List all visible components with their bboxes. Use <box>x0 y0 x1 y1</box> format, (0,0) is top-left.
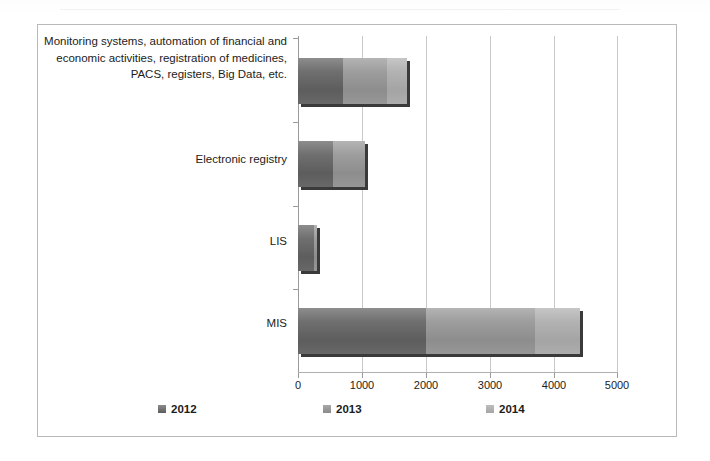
gridline-5000 <box>617 36 618 373</box>
xtick-label-0: 0 <box>295 379 301 391</box>
bar-shadow-bottom <box>301 354 583 357</box>
axis-tick-x-2000 <box>426 373 427 378</box>
legend-label-2013: 2013 <box>336 403 362 415</box>
axis-tick-y-top <box>293 38 298 39</box>
legend-item-2013[interactable]: 2013 <box>323 403 362 415</box>
legend-item-2012[interactable]: 2012 <box>158 403 197 415</box>
category-label-mis: MIS <box>32 315 287 332</box>
legend-swatch-icon <box>323 405 331 413</box>
bar-segment-2012[interactable] <box>298 58 343 104</box>
category-label-lis: LIS <box>32 233 287 250</box>
axis-tick-y-2 <box>293 206 298 207</box>
legend-swatch-icon <box>486 405 494 413</box>
bar-shadow-bottom <box>301 104 410 107</box>
axis-tick-x-5000 <box>617 373 618 378</box>
xtick-label-2000: 2000 <box>414 379 438 391</box>
bar-shadow-right <box>407 61 410 107</box>
bar-shadow-right <box>317 228 320 274</box>
xtick-label-5000: 5000 <box>605 379 629 391</box>
xtick-label-1000: 1000 <box>350 379 374 391</box>
legend-swatch-icon <box>158 405 166 413</box>
category-label-electronic-registry: Electronic registry <box>32 151 287 168</box>
xtick-label-4000: 4000 <box>542 379 566 391</box>
bar-segment-2013[interactable] <box>343 58 387 104</box>
axis-tick-x-4000 <box>554 373 555 378</box>
bar-shadow-right <box>365 144 368 190</box>
axis-tick-y-1 <box>293 122 298 123</box>
value-axis <box>298 372 618 373</box>
axis-tick-y-3 <box>293 289 298 290</box>
bar-segment-2013[interactable] <box>426 308 535 354</box>
legend-item-2014[interactable]: 2014 <box>486 403 525 415</box>
axis-tick-x-0 <box>298 373 299 378</box>
bar-shadow-right <box>580 311 583 357</box>
bar-segment-2014[interactable] <box>535 308 580 354</box>
plot-area <box>298 36 618 373</box>
bar-segment-2014[interactable] <box>387 58 407 104</box>
chart-frame: Monitoring systems, automation of financ… <box>37 24 677 437</box>
axis-tick-x-3000 <box>490 373 491 378</box>
chart-legend: 2012 2013 2014 <box>38 403 676 425</box>
xtick-label-3000: 3000 <box>478 379 502 391</box>
bar-segment-2012[interactable] <box>298 225 314 271</box>
legend-label-2014: 2014 <box>499 403 525 415</box>
bar-segment-2013[interactable] <box>333 141 365 187</box>
scan-artifact-band <box>0 0 710 14</box>
bar-shadow-bottom <box>301 187 368 190</box>
bar-segment-2012[interactable] <box>298 308 426 354</box>
category-label-monitoring-systems: Monitoring systems, automation of financ… <box>32 33 287 83</box>
legend-label-2012: 2012 <box>171 403 197 415</box>
axis-tick-x-1000 <box>362 373 363 378</box>
bar-segment-2012[interactable] <box>298 141 333 187</box>
